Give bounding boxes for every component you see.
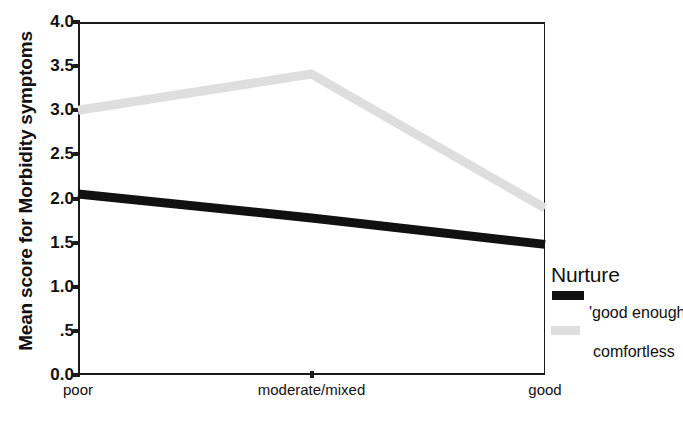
- y-axis-tick-label: 4.0: [34, 12, 74, 32]
- x-axis-tick-label: good: [528, 381, 561, 398]
- morbidity-symptoms-line-chart: Mean score for Morbidity symptoms 4.03.5…: [0, 0, 683, 421]
- legend-label-comfortless: comfortless: [593, 342, 683, 361]
- legend-entry-good-enough: 'good enough': [551, 291, 683, 322]
- legend-swatch-good-enough: [552, 291, 584, 300]
- x-axis-tick-mark: [310, 371, 314, 378]
- legend-title: Nurture: [551, 263, 683, 287]
- series-canvas: [78, 22, 545, 375]
- series-line-good-enough: [78, 194, 545, 244]
- x-axis-tick-label: poor: [63, 381, 93, 398]
- legend-label-good-enough: 'good enough': [589, 303, 683, 322]
- y-axis-tick-label: .5: [34, 321, 74, 341]
- series-line-comfortless: [78, 74, 545, 208]
- y-axis-tick-label: 1.5: [34, 233, 74, 253]
- y-axis-tick-label: 2.5: [34, 144, 74, 164]
- legend: Nurture 'good enough' comfortless: [551, 263, 683, 361]
- x-axis-tick-label: moderate/mixed: [258, 381, 366, 398]
- y-axis-tick-label: 2.0: [34, 189, 74, 209]
- legend-entry-comfortless: comfortless: [551, 326, 683, 361]
- y-axis-tick-label: 3.5: [34, 56, 74, 76]
- y-axis-tick-label: 3.0: [34, 100, 74, 120]
- legend-swatch-comfortless: [551, 326, 580, 335]
- y-axis-tick-label: 1.0: [34, 277, 74, 297]
